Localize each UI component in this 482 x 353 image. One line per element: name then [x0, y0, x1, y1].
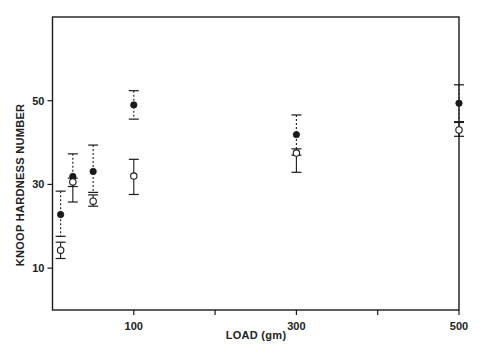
series-filled	[56, 85, 464, 237]
data-point-filled	[131, 102, 137, 108]
data-point-filled	[90, 168, 96, 174]
y-tick-label: 50	[32, 95, 44, 107]
plot-frame	[53, 17, 460, 310]
data-point-open	[70, 179, 76, 185]
y-axis-label: KNOOP HARDNESS NUMBER	[14, 104, 26, 267]
x-axis-label: LOAD (gm)	[226, 329, 287, 341]
y-tick-label: 10	[32, 262, 44, 274]
data-point-open	[131, 173, 137, 179]
data-point-open	[456, 127, 462, 133]
x-tick-label: 500	[450, 320, 468, 332]
data-point-open	[90, 198, 96, 204]
data-point-filled	[293, 131, 299, 137]
data-point-filled	[456, 100, 462, 106]
x-tick-label: 100	[125, 320, 143, 332]
y-tick-label: 30	[32, 178, 44, 190]
data-series	[56, 85, 464, 259]
series-open	[56, 122, 464, 258]
data-point-open	[57, 247, 63, 253]
x-tick-label: 300	[287, 320, 305, 332]
y-axis-ticks: 103050	[32, 95, 52, 274]
plot-border	[53, 17, 460, 310]
data-point-open	[293, 150, 299, 156]
chart: 103050 100300500 LOAD (gm) KNOOP HARDNES…	[0, 0, 482, 353]
data-point-filled	[57, 211, 63, 217]
x-axis-ticks: 100300500	[125, 310, 469, 332]
